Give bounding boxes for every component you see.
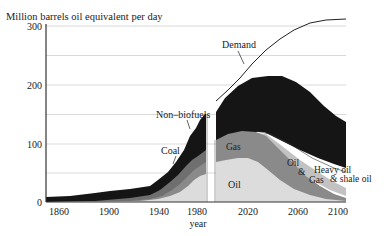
coal-label: Coal	[161, 145, 180, 156]
fuel-supply-demand-chart: Million barrels oil equivalent per day	[0, 0, 384, 236]
x-tick-2020: 2020	[238, 206, 258, 217]
x-tick-1980: 1980	[187, 206, 207, 217]
demand-arrow	[238, 51, 244, 64]
y-tick-0: 0	[37, 197, 42, 208]
non-biofuels-label: Non–biofuels	[156, 109, 211, 120]
non-biofuels-arrow	[187, 120, 190, 129]
oil-gas-label-amp: &	[298, 167, 306, 177]
oil-gas-label-gas: Gas	[309, 175, 324, 185]
x-axis-title: year	[189, 218, 207, 229]
x-tick-2100: 2100	[328, 206, 348, 217]
x-tick-2060: 2060	[288, 206, 308, 217]
y-tick-labels: 300 200 100 0	[27, 21, 42, 208]
gas-label: Gas	[226, 142, 241, 152]
shale-oil-label: & shale oil	[330, 174, 372, 184]
y-tick-300: 300	[27, 21, 42, 32]
x-tick-labels: 1860 1900 1940 1980 2020 2060 2100	[49, 206, 348, 217]
oil-label: Oil	[228, 179, 241, 190]
x-tick-1940: 1940	[149, 206, 169, 217]
historical-area	[46, 114, 206, 202]
x-tick-1860: 1860	[49, 206, 69, 217]
y-tick-100: 100	[27, 139, 42, 150]
y-tick-200: 200	[27, 80, 42, 91]
x-tick-1900: 1900	[99, 206, 119, 217]
demand-label: Demand	[222, 39, 256, 50]
